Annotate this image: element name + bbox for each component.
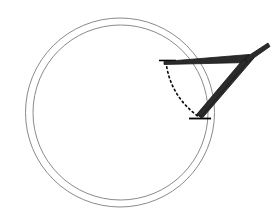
background-rect <box>0 0 280 224</box>
figure-canvas <box>0 0 280 224</box>
geometric-diagram-svg <box>0 0 280 224</box>
